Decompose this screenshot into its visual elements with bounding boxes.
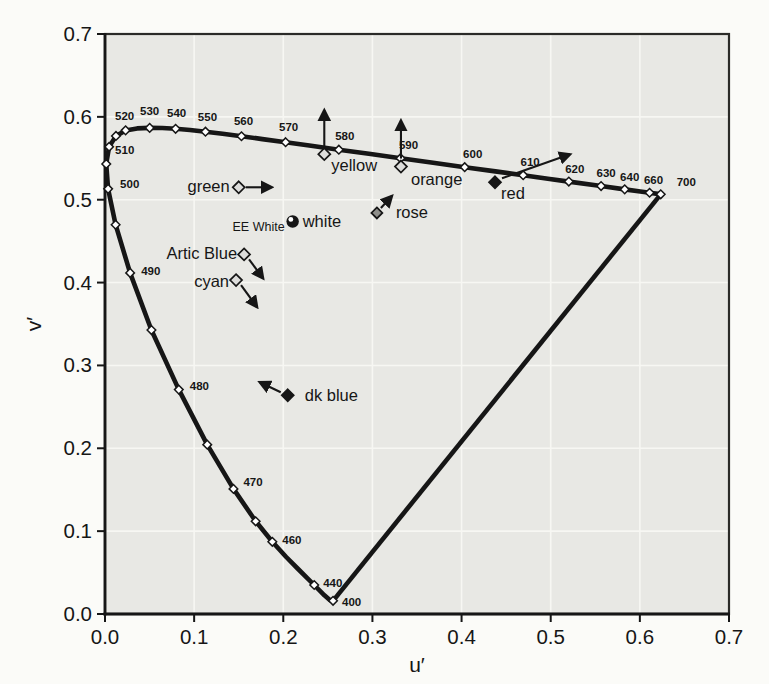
y-tick-label: 0.0 — [64, 602, 93, 625]
wavelength-label-700: 700 — [677, 176, 696, 188]
wavelength-label-520: 520 — [115, 110, 134, 122]
wavelength-label-580: 580 — [335, 130, 354, 142]
wavelength-label-530: 530 — [140, 105, 159, 117]
white-label: white — [302, 212, 342, 230]
white-marker — [286, 215, 298, 227]
wavelength-label-440: 440 — [323, 577, 342, 589]
wavelength-label-550: 550 — [198, 111, 217, 123]
y-tick-label: 0.2 — [64, 436, 93, 459]
green-label: green — [188, 177, 230, 195]
wavelength-label-400: 400 — [342, 596, 361, 608]
wavelength-label-560: 560 — [234, 115, 253, 127]
wavelength-label-600: 600 — [463, 148, 482, 160]
y-tick-label: 0.1 — [64, 519, 93, 542]
artic-blue-label: Artic Blue — [166, 244, 237, 262]
wavelength-label-630: 630 — [596, 167, 615, 179]
y-tick-label: 0.4 — [64, 271, 93, 294]
wavelength-label-540: 540 — [167, 107, 186, 119]
dk-blue-label: dk blue — [305, 386, 358, 404]
wavelength-label-510: 510 — [115, 144, 134, 156]
wavelength-label-470: 470 — [243, 476, 262, 488]
orange-label: orange — [411, 170, 462, 188]
white-marker-highlight — [288, 217, 293, 222]
x-tick-label: 0.1 — [180, 625, 209, 648]
x-tick-label: 0.7 — [715, 625, 744, 648]
y-tick-label: 0.5 — [64, 188, 93, 211]
wavelength-label-480: 480 — [190, 380, 209, 392]
y-tick-label: 0.3 — [64, 353, 93, 376]
wavelength-label-490: 490 — [141, 265, 160, 277]
red-label: red — [501, 184, 525, 202]
wavelength-label-460: 460 — [282, 534, 301, 546]
scanned-figure-page: 0.00.10.20.30.40.50.60.70.00.10.20.30.40… — [0, 0, 769, 684]
yellow-label: yellow — [331, 156, 377, 174]
chromaticity-diagram: 0.00.10.20.30.40.50.60.70.00.10.20.30.40… — [0, 0, 769, 684]
wavelength-label-500: 500 — [120, 178, 139, 190]
rose-label: rose — [396, 203, 428, 221]
y-tick-label: 0.6 — [64, 105, 93, 128]
y-axis-title: v′ — [22, 317, 45, 332]
x-tick-label: 0.5 — [536, 625, 565, 648]
wavelength-label-640: 640 — [620, 171, 639, 183]
x-tick-label: 0.6 — [626, 625, 655, 648]
x-tick-label: 0.2 — [269, 625, 298, 648]
x-tick-label: 0.3 — [358, 625, 387, 648]
wavelength-label-660: 660 — [644, 174, 663, 186]
x-tick-label: 0.4 — [447, 625, 476, 648]
wavelength-label-620: 620 — [565, 163, 584, 175]
x-tick-label: 0.0 — [91, 625, 120, 648]
y-tick-label: 0.7 — [64, 22, 93, 45]
cyan-label: cyan — [194, 272, 229, 290]
x-axis-title: u′ — [409, 653, 425, 676]
white-sub-label: EE White — [233, 220, 285, 234]
wavelength-label-570: 570 — [279, 121, 298, 133]
